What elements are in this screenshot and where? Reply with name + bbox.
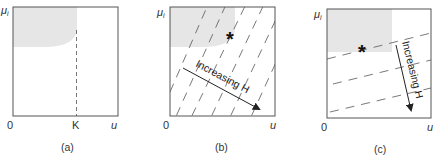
star-marker: * <box>358 41 366 63</box>
panel-caption: (c) <box>374 143 386 155</box>
figure: μi 0 K u (a) * Increasing H μi 0 u (b) <box>0 0 433 155</box>
arrow-label: Increasing H <box>400 40 426 100</box>
star-marker: * <box>226 28 234 50</box>
panel-a: μi 0 K u (a) <box>0 4 118 153</box>
y-axis-label: μi <box>0 4 9 17</box>
shaded-region <box>13 7 77 47</box>
origin-label: 0 <box>7 119 13 131</box>
panel-c: * Increasing H μi 0 u (c) <box>313 8 433 155</box>
origin-label: 0 <box>163 119 169 131</box>
x-axis-label: u <box>427 121 433 133</box>
origin-label: 0 <box>321 121 327 133</box>
x-axis-label: u <box>111 119 117 131</box>
panel-b: * Increasing H μi 0 u (b) <box>156 0 300 153</box>
y-axis-label: μi <box>313 8 322 21</box>
panel-caption: (a) <box>61 141 74 153</box>
panel-caption: (b) <box>215 141 228 153</box>
k-tick-label: K <box>72 119 80 131</box>
x-axis-label: u <box>270 119 276 131</box>
y-axis-label: μi <box>156 6 165 19</box>
